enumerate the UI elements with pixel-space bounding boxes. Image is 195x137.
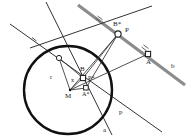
label-line-b: b <box>171 62 175 70</box>
label-point-M: M <box>65 92 72 100</box>
label-point-Bstar: B* <box>113 20 122 28</box>
label-point-Pstar: P* <box>88 74 95 81</box>
label-point-Astar: A* <box>82 90 90 97</box>
point-P-marker <box>115 31 121 37</box>
point-M-marker <box>69 89 71 91</box>
label-line-p: p <box>119 108 123 116</box>
label-point-P: P <box>125 26 129 34</box>
label-point-B: B <box>80 65 85 73</box>
point-T-marker <box>56 55 61 60</box>
geometry-figure: M P B* A P* B A* r x a b p <box>0 0 195 137</box>
label-segment-r: r <box>50 73 52 80</box>
point-Pstar-marker <box>80 75 85 80</box>
label-point-A: A <box>146 58 151 66</box>
point-A-marker <box>145 51 150 56</box>
geometry-canvas: M P B* A P* B A* r x a b p <box>0 0 195 137</box>
